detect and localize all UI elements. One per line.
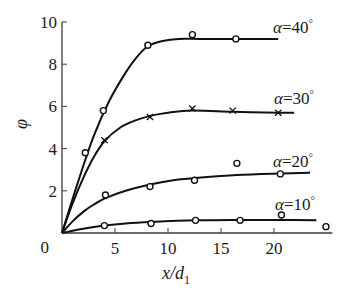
- marker-circle-alpha-10: [101, 223, 107, 229]
- series-label-degree: °: [311, 194, 315, 206]
- series-labels: α=40°α=30°α=20°α=10°: [273, 17, 315, 214]
- marker-circle-alpha-20: [147, 184, 153, 190]
- marker-circle-alpha-10: [323, 224, 329, 230]
- y-tick-label: 6: [49, 97, 58, 116]
- x-tick-label: 10: [160, 239, 177, 258]
- marker-circle-alpha-20: [277, 171, 283, 177]
- series-label-value: =30: [283, 89, 310, 108]
- marker-circle-alpha-40: [82, 150, 88, 156]
- series-label-degree: °: [309, 17, 313, 29]
- y-tick-label: 0: [41, 238, 50, 257]
- x-tick-label: 20: [266, 239, 283, 258]
- series-label-alpha-30: α=30°: [274, 88, 314, 108]
- curve-alpha-20: [62, 173, 310, 233]
- marker-circle-alpha-40: [100, 108, 106, 114]
- series-label-degree: °: [309, 151, 313, 163]
- series-label-degree: °: [310, 88, 314, 100]
- x-axis-title-main: x/d: [161, 263, 185, 283]
- series-label-alpha-40: α=40°: [273, 17, 313, 37]
- marker-circle-alpha-40: [233, 36, 239, 42]
- x-axis-title: x/d1: [161, 263, 190, 287]
- marker-circle-alpha-10: [237, 217, 243, 223]
- marker-circle-alpha-20: [234, 160, 240, 166]
- x-axis-title-subscript: 1: [184, 273, 190, 287]
- y-tick-label: 4: [49, 140, 58, 159]
- series-label-alpha-10: α=10°: [275, 194, 315, 214]
- y-axis-title: φ: [11, 119, 31, 129]
- marker-circle-alpha-40: [189, 32, 195, 38]
- series-label-value: =10: [284, 195, 311, 214]
- marker-circle-alpha-20: [102, 192, 108, 198]
- marker-circle-alpha-10: [148, 221, 154, 227]
- marker-circle-alpha-20: [192, 177, 198, 183]
- series-label-value: =40: [282, 18, 309, 37]
- marker-circle-alpha-10: [193, 217, 199, 223]
- y-tick-label: 8: [49, 55, 58, 74]
- x-tick-label: 15: [213, 239, 230, 258]
- y-tick-label: 2: [49, 182, 58, 201]
- chart: 02468105101520 α=40°α=30°α=20°α=10° φ x/…: [0, 0, 341, 292]
- series-label-alpha-20: α=20°: [273, 151, 313, 171]
- marker-circle-alpha-40: [145, 42, 151, 48]
- curve-alpha-10: [62, 220, 316, 233]
- x-tick-label: 5: [111, 239, 120, 258]
- y-tick-label: 10: [40, 13, 57, 32]
- series-label-value: =20: [282, 152, 309, 171]
